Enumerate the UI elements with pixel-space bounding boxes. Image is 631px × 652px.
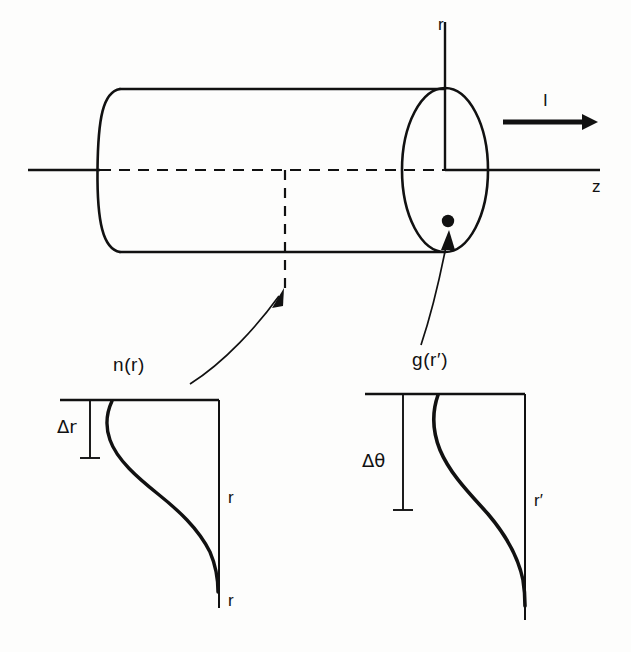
callout-arrow-right-head: [441, 230, 455, 250]
field-point-dot: [442, 215, 454, 227]
current-arrow-group: [503, 114, 598, 130]
callout-arrow-left-head: [272, 288, 284, 308]
z-axis-label: z: [592, 178, 601, 195]
figure-root: r z I n(r) Δr r r g(r′) Δθ r′: [0, 0, 631, 652]
plot-n-r-axis-label-mid: r: [228, 489, 234, 506]
plot-n-r-title: n(r): [113, 355, 145, 374]
plot-g-rprime-axis-label-mid: r′: [534, 492, 543, 509]
current-arrow-head: [582, 114, 598, 130]
plot-g-rprime-delta-label: Δθ: [362, 452, 385, 470]
plot-g-rprime-title: g(r′): [412, 350, 448, 369]
plot-g-rprime-group: [365, 394, 525, 620]
r-axis-label: r: [438, 16, 444, 33]
plot-n-r-delta-label: Δr: [57, 418, 77, 436]
plot-n-r-profile-curve: [107, 401, 218, 592]
callout-arrow-left-shaft: [190, 296, 279, 384]
plot-g-rprime-profile-curve: [434, 395, 525, 606]
diagram-canvas: [0, 0, 631, 652]
plot-n-r-axis-label-bottom: r: [228, 592, 234, 609]
plot-n-r-group: [60, 400, 219, 608]
current-label: I: [543, 92, 548, 109]
